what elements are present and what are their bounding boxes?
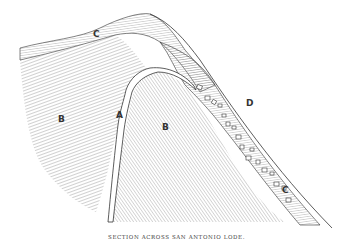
label-b-left: B [58, 114, 65, 124]
label-b-right: B [162, 122, 169, 132]
label-a: A [116, 110, 123, 120]
label-d: D [246, 98, 253, 108]
figure-caption: SECTION ACROSS SAN ANTONIO LODE. [0, 234, 353, 240]
label-c-bottom: C [282, 185, 289, 195]
label-c-top: C [93, 29, 100, 39]
geological-section-illustration: C B A B D C [0, 0, 353, 249]
